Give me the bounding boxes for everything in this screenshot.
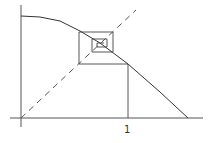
function-curve [21,16,188,118]
cobweb-path [79,32,128,118]
x-tick-label-1: 1 [124,124,130,135]
cobweb-diagram: 1 [0,0,214,143]
